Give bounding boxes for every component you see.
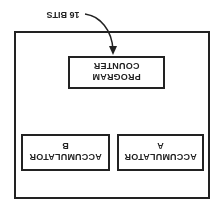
bit-width-annotation: 16 BITS bbox=[44, 10, 82, 20]
pointer-arrow-icon bbox=[0, 0, 224, 212]
rotated-diagram: PROGRAM COUNTER ACCUMULATOR A ACCUMULATO… bbox=[0, 0, 224, 212]
